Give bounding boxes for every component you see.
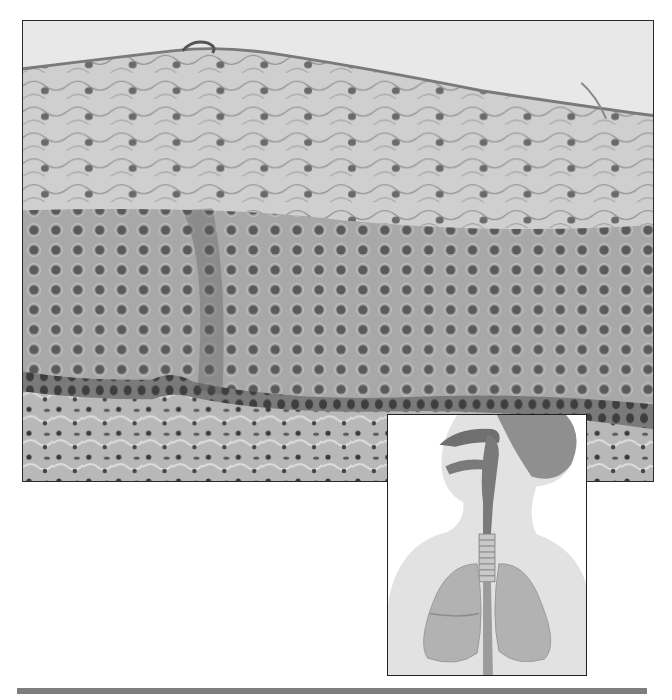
micrograph-image — [23, 21, 653, 481]
histology-micrograph — [22, 20, 654, 482]
horizontal-rule — [17, 688, 647, 694]
anatomy-inset — [387, 414, 587, 676]
respiratory-tract-illustration — [388, 415, 586, 675]
